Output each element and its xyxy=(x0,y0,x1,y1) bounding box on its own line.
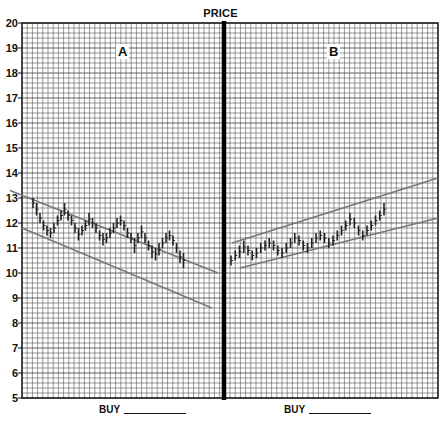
buy-label-b: BUY xyxy=(284,404,305,415)
buy-field-b[interactable]: BUY xyxy=(284,404,371,415)
buy-field-a[interactable]: BUY xyxy=(99,404,186,415)
price-chart xyxy=(0,0,441,429)
buy-answer-line-a[interactable] xyxy=(124,413,186,414)
panel-label-a: A xyxy=(116,44,129,59)
buy-answer-line-b[interactable] xyxy=(309,413,371,414)
buy-label-a: BUY xyxy=(99,404,120,415)
panel-label-b: B xyxy=(327,44,340,59)
